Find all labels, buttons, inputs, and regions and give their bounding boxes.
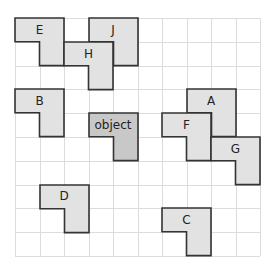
shape-e: E [15,18,64,66]
shape-h: H [64,42,113,90]
shape-object: object [89,113,138,161]
shape-label: B [15,94,64,108]
shape-label: C [162,213,211,227]
shape-b: B [15,89,64,137]
grid-board: EJHBobjectAFGDC [15,18,260,256]
shape-label: A [187,94,236,108]
shape-label: object [89,118,138,132]
shape-label: H [64,47,113,61]
grid-line-horizontal [15,232,260,233]
shape-g: G [211,137,260,185]
grid-line-horizontal [15,256,260,257]
shape-label: J [89,23,138,37]
shape-f: F [162,113,211,161]
shape-label: E [15,23,64,37]
shape-label: F [162,118,211,132]
shape-c: C [162,208,211,256]
shape-label: D [40,189,89,203]
shape-label: G [211,142,260,156]
shape-d: D [40,185,89,233]
